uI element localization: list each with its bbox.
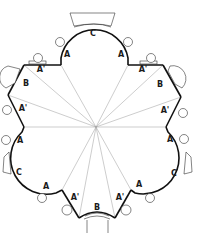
left-c-side-table <box>3 152 11 174</box>
label-right-a-lower: A <box>136 181 142 189</box>
label-top-left-a-prime: A' <box>37 66 46 74</box>
label-left-a-lower: A <box>43 183 49 191</box>
label-top-a-right: A <box>118 51 124 59</box>
label-right-a-prime: A' <box>161 107 170 115</box>
label-right-b: B <box>157 81 163 89</box>
floor-plan-diagram: C A A A' A' B B A' A' A A C C A A A' A' … <box>0 0 198 246</box>
right-c-side-table <box>184 152 192 174</box>
label-bottom-left-a-prime: A' <box>71 194 80 202</box>
label-right-c: C <box>171 170 177 178</box>
label-left-c: C <box>16 169 22 177</box>
label-left-a-upper: A <box>17 137 23 145</box>
label-bottom-b: B <box>94 204 100 212</box>
right-b-chair <box>168 66 186 88</box>
left-b-chair <box>0 66 20 88</box>
label-bottom-right-a-prime: A' <box>116 194 125 202</box>
furniture <box>0 13 192 233</box>
center-rays <box>8 65 181 218</box>
label-right-a-upper: A <box>167 136 173 144</box>
label-left-a-prime: A' <box>19 105 28 113</box>
label-top-right-a-prime: A' <box>139 66 148 74</box>
label-left-b: B <box>23 80 29 88</box>
label-top-a-left: A <box>64 51 70 59</box>
label-top-c: C <box>90 30 96 38</box>
